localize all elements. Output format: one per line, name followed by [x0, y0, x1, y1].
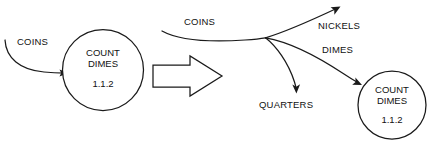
left-process-name-line2: DIMES: [73, 58, 133, 70]
dimes-flow-arrowhead: [352, 78, 362, 85]
dimes-flow-label: DIMES: [322, 44, 353, 55]
quarters-flow-label: QUARTERS: [259, 99, 313, 110]
left-process-id: 1.1.2: [73, 78, 133, 89]
left-process-name-line1: COUNT: [73, 47, 133, 59]
right-process-id: 1.1.2: [362, 114, 422, 125]
right-coins-flow-label: COINS: [184, 16, 215, 27]
left-coins-flow-label: COINS: [17, 36, 48, 47]
right-coins-flow-line: [162, 31, 266, 41]
transform-block-arrow: [153, 56, 222, 96]
right-process-name-line1: COUNT: [362, 84, 422, 96]
nickels-flow-label: NICKELS: [318, 20, 360, 31]
right-process-name-line2: DIMES: [362, 95, 422, 107]
left-process-circle: [63, 30, 144, 111]
diagram-canvas: COINS COUNT DIMES 1.1.2 COINS NICKELS DI…: [0, 0, 428, 148]
quarters-flow-arrowhead: [292, 84, 300, 93]
